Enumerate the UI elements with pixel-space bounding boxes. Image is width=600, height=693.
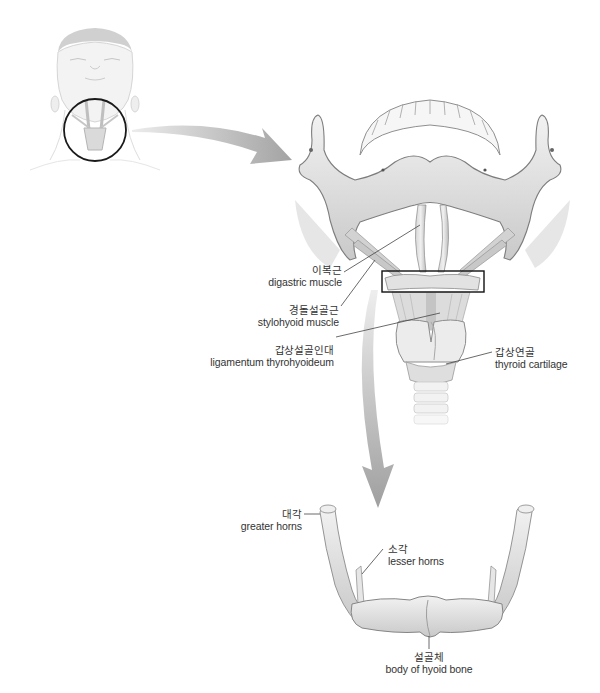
label-greater-horns: 대각 greater horns — [220, 508, 302, 532]
label-thyroid-cartilage: 갑상연골 thyroid cartilage — [495, 346, 567, 370]
head-to-jaw-arrow — [132, 126, 292, 165]
label-hyoid-body: 설골체 body of hyoid bone — [369, 651, 489, 675]
mandible-illustration — [295, 100, 570, 424]
label-stylohyoid-muscle: 경돌설골근 stylohyoid muscle — [220, 304, 339, 328]
label-digastric-muscle: 이복근 digastric muscle — [240, 264, 342, 288]
hyoid-illustration — [320, 505, 534, 637]
anatomy-figure: 이복근 digastric muscle 경돌설골근 stylohyoid mu… — [0, 0, 600, 693]
label-thyrohyoid-ligament: 갑상설골인대 ligamentum thyrohyoideum — [180, 344, 334, 368]
jaw-to-hyoid-arrow — [362, 290, 394, 508]
label-lesser-horns: 소각 lesser horns — [388, 543, 444, 567]
